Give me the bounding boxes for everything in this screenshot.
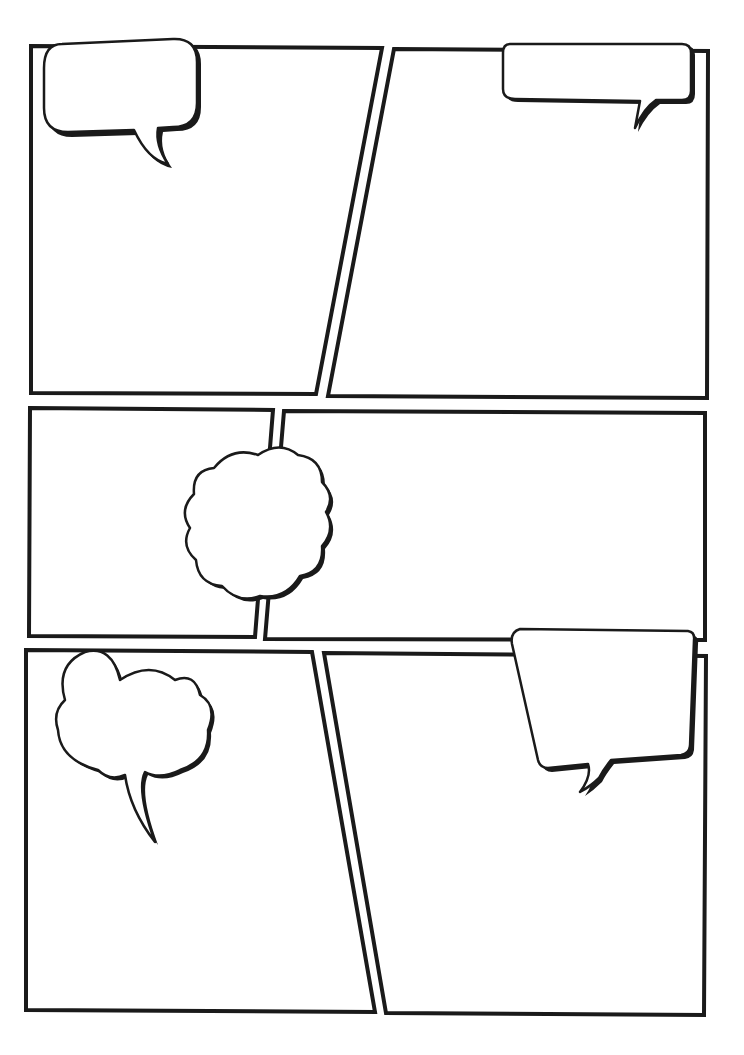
comic-page <box>0 0 744 1055</box>
panels <box>26 46 708 1015</box>
